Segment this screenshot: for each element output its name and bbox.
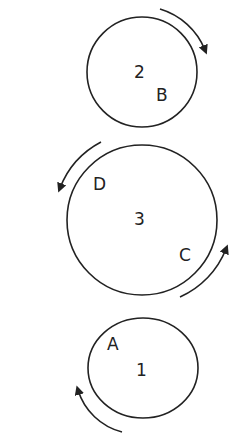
- circle-3-letter-c: C: [179, 245, 191, 265]
- circle-2-group: 2 B: [87, 9, 205, 127]
- circle-3-number: 3: [134, 209, 145, 229]
- circle-1-group: A 1: [78, 318, 198, 432]
- circle-1-number: 1: [136, 360, 147, 380]
- circle-3-letter-d: D: [93, 174, 106, 194]
- circle-1-letter-a: A: [107, 334, 119, 354]
- circle-2-number: 2: [134, 62, 145, 82]
- circle-2-letter-b: B: [156, 85, 168, 105]
- circle-3-group: D 3 C: [60, 142, 226, 297]
- circle-2-clockwise-arrow-icon: [160, 9, 205, 50]
- rotation-diagram: 2 B D 3 C A 1: [0, 0, 236, 443]
